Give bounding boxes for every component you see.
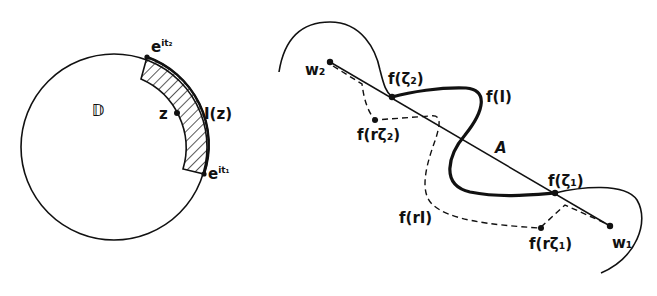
f-r-zeta1-label: f(rζ₁) <box>529 235 572 253</box>
f-r-zeta2-dot <box>372 117 378 123</box>
f-r-zeta2-label: f(rζ₂) <box>357 126 400 144</box>
curve-f-rI <box>333 66 607 228</box>
point-z-label: z <box>159 105 168 123</box>
segment-A <box>330 62 610 226</box>
endpoint-top-label: eit₂ <box>151 38 173 56</box>
f-I-label: f(I) <box>486 88 512 106</box>
boundary-curve-left <box>279 22 392 97</box>
endpoint-bottom-label: eit₁ <box>208 165 230 183</box>
f-zeta1-label: f(ζ₁) <box>548 172 584 190</box>
w2-dot <box>327 59 333 65</box>
endpoint-bottom-dot <box>201 171 206 176</box>
f-rI-label: f(rI) <box>399 209 432 227</box>
hatched-region <box>141 57 209 174</box>
w1-label: w₁ <box>612 234 632 252</box>
point-z-dot <box>174 110 180 116</box>
right-panel-image: w₂ w₁ f(ζ₂) f(ζ₁) f(I) f(rζ₂) f(rζ₁) f(r… <box>279 22 642 273</box>
f-zeta1-dot <box>552 190 558 196</box>
w1-dot <box>607 223 613 229</box>
arc-I-z-label: I(z) <box>204 105 232 123</box>
endpoint-top-dot <box>144 54 149 59</box>
left-panel-disk: 𝔻 z I(z) eit₂ eit₁ <box>21 38 232 240</box>
boundary-curve-right <box>555 187 642 273</box>
conformal-map-figure: 𝔻 z I(z) eit₂ eit₁ w₂ w₁ f(ζ₂) f(ζ₁) <box>0 0 657 296</box>
f-zeta2-label: f(ζ₂) <box>388 70 424 88</box>
f-zeta2-dot <box>389 94 395 100</box>
f-r-zeta1-dot <box>538 225 544 231</box>
disk-label: 𝔻 <box>92 102 104 120</box>
segment-A-label: A <box>494 139 507 157</box>
w2-label: w₂ <box>305 61 325 79</box>
